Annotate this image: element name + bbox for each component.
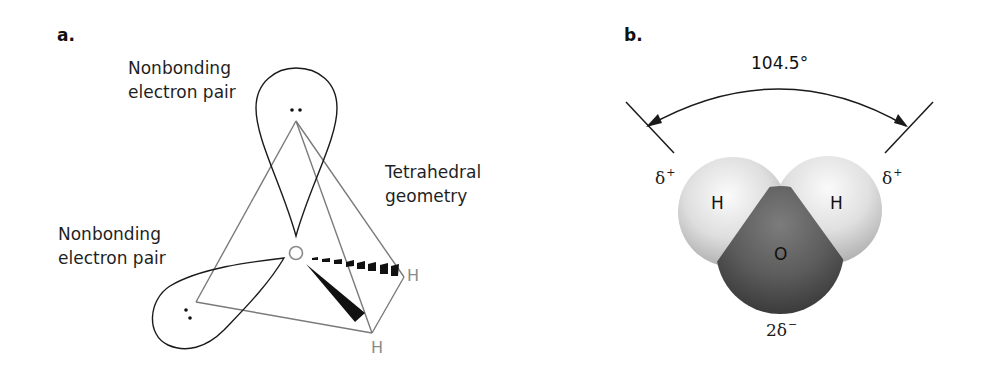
water-space-filling-model	[678, 156, 882, 314]
upper-electron-dot	[290, 108, 294, 112]
oxygen-atom-symbol	[290, 247, 303, 260]
hydrogen-right-label: H	[407, 266, 419, 285]
oxygen-label: O	[774, 244, 787, 264]
label-line: Nonbonding	[128, 56, 236, 80]
bond-angle-arc	[648, 89, 906, 126]
right-angle-reference-line	[885, 102, 933, 153]
right-hydrogen-label: H	[830, 193, 843, 213]
tetrahedral-geometry-label: Tetrahedral geometry	[385, 160, 481, 208]
charge-sign: −	[788, 318, 797, 331]
tetrahedron	[196, 121, 404, 333]
charge-sign: +	[893, 166, 902, 179]
charge-symbol: 2δ	[766, 320, 787, 340]
label-line: electron pair	[58, 246, 166, 270]
charge-symbol: δ	[882, 168, 892, 188]
panel-b-label: b.	[624, 25, 643, 45]
panel-a-label: a.	[57, 25, 75, 45]
oxygen-partial-negative-charge: 2δ−	[766, 318, 797, 340]
left-lone-pair-label: Nonbonding electron pair	[58, 222, 166, 270]
lower-electron-dot	[184, 308, 188, 312]
top-lone-pair-label: Nonbonding electron pair	[128, 56, 236, 104]
right-partial-positive-charge: δ+	[882, 166, 902, 188]
label-line: geometry	[385, 184, 481, 208]
left-arrowhead	[646, 114, 662, 127]
bond-angle-value: 104.5°	[751, 53, 808, 73]
label-line: Nonbonding	[58, 222, 166, 246]
charge-symbol: δ	[655, 168, 665, 188]
left-hydrogen-label: H	[711, 193, 724, 213]
label-line: Tetrahedral	[385, 160, 481, 184]
charge-sign: +	[666, 166, 675, 179]
hashed-wedge-bond	[312, 257, 399, 276]
right-arrowhead	[894, 114, 908, 127]
left-angle-reference-line	[626, 102, 674, 153]
upper-lone-pair-lobe	[256, 68, 337, 236]
upper-electron-dot	[298, 108, 302, 112]
lower-lone-pair-lobe	[152, 258, 284, 349]
label-line: electron pair	[128, 80, 236, 104]
left-partial-positive-charge: δ+	[655, 166, 675, 188]
solid-wedge-bond	[306, 264, 365, 322]
hydrogen-bottom-label: H	[371, 338, 383, 357]
lower-electron-dot	[188, 316, 192, 320]
